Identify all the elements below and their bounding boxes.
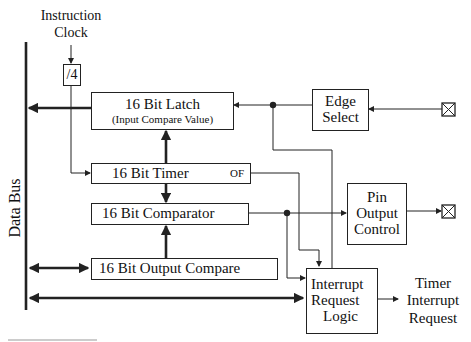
interrupt-logic-line: Request <box>311 293 359 309</box>
comparator-title: 16 Bit Comparator <box>102 206 215 222</box>
interrupt-logic-line: Interrupt <box>311 277 363 293</box>
pin-output-control-line: Output <box>356 206 398 222</box>
divider-box: /4 <box>63 64 81 86</box>
data-bus-label: Data Bus <box>7 173 23 243</box>
latch-subtitle: (Input Compare Value) <box>112 114 213 126</box>
label-line: Request <box>400 310 466 327</box>
divider-label: /4 <box>67 68 78 83</box>
output-compare-title: 16 Bit Output Compare <box>99 261 240 277</box>
overflow-flag-label: OF <box>230 168 244 180</box>
output-pin-icon <box>442 205 455 218</box>
edge-select-block: Edge Select <box>312 89 369 131</box>
edge-select-line: Select <box>322 110 359 126</box>
pin-output-control-line: Pin <box>367 190 387 206</box>
comparator-block: 16 Bit Comparator <box>91 203 249 225</box>
latch-block: 16 Bit Latch (Input Compare Value) <box>91 92 234 130</box>
label-line: Timer <box>400 275 466 292</box>
interrupt-logic-line: Logic <box>323 309 358 325</box>
pin-output-control-block: Pin Output Control <box>347 183 407 245</box>
latch-title: 16 Bit Latch <box>125 97 200 113</box>
instruction-clock-label: Instruction Clock <box>40 9 102 40</box>
timer-title: 16 Bit Timer <box>112 166 189 182</box>
timer-block: 16 Bit Timer OF <box>91 163 251 184</box>
label-line: Clock <box>40 26 102 40</box>
pin-output-control-line: Control <box>354 222 400 238</box>
timer-interrupt-request-label: Timer Interrupt Request <box>400 275 466 327</box>
label-line: Interrupt <box>400 292 466 309</box>
timer-block-diagram: Instruction Clock /4 Data Bus 16 Bit Lat… <box>0 0 471 342</box>
output-compare-block: 16 Bit Output Compare <box>91 258 278 280</box>
interrupt-request-logic-block: Interrupt Request Logic <box>306 268 378 334</box>
label-line: Instruction <box>40 9 102 23</box>
input-pin-icon <box>442 103 455 116</box>
edge-select-line: Edge <box>325 94 356 110</box>
